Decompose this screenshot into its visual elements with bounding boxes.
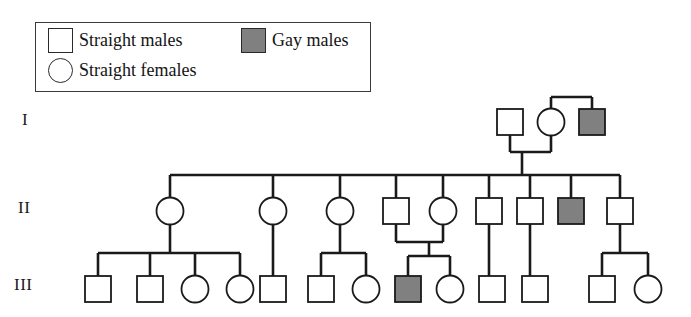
individual-I-2-circle-straight-female[interactable] bbox=[538, 109, 565, 136]
individual-III-6-square-straight-male[interactable] bbox=[308, 276, 334, 302]
circle-outline-icon bbox=[48, 58, 73, 83]
individual-III-13-circle-straight-female[interactable] bbox=[635, 276, 662, 303]
legend-label-gay-males: Gay males bbox=[272, 30, 348, 51]
individual-II-3-circle-straight-female[interactable] bbox=[327, 198, 354, 225]
individual-III-11-square-straight-male[interactable] bbox=[522, 276, 548, 302]
individual-II-1-circle-straight-female[interactable] bbox=[157, 198, 184, 225]
individual-I-3-square-gay-male[interactable] bbox=[579, 109, 605, 135]
individual-III-2-square-straight-male[interactable] bbox=[137, 276, 163, 302]
generation-label-1: I bbox=[22, 110, 28, 130]
individual-I-1-square-straight-male[interactable] bbox=[497, 109, 523, 135]
generation-label-2: II bbox=[18, 198, 30, 218]
legend: Straight males Gay males Straight female… bbox=[35, 22, 371, 92]
individual-III-7-circle-straight-female[interactable] bbox=[353, 276, 380, 303]
individual-II-6-square-straight-male[interactable] bbox=[476, 198, 502, 224]
generation-3-symbols bbox=[85, 276, 662, 303]
individual-III-3-circle-straight-female[interactable] bbox=[182, 276, 209, 303]
individual-III-5-square-straight-male[interactable] bbox=[260, 276, 286, 302]
individual-II-8-square-gay-male[interactable] bbox=[558, 198, 584, 224]
pedigree-figure: Straight males Gay males Straight female… bbox=[0, 0, 691, 317]
legend-label-straight-males: Straight males bbox=[79, 30, 182, 51]
square-filled-icon bbox=[241, 28, 266, 53]
individual-II-2-circle-straight-female[interactable] bbox=[260, 198, 287, 225]
individual-III-12-square-straight-male[interactable] bbox=[589, 276, 615, 302]
square-outline-icon bbox=[48, 28, 73, 53]
individual-III-9-circle-straight-female[interactable] bbox=[437, 276, 464, 303]
connector-lines bbox=[98, 97, 648, 276]
individual-III-1-square-straight-male[interactable] bbox=[85, 276, 111, 302]
legend-item-straight-females: Straight females bbox=[48, 58, 196, 83]
individual-II-5-circle-straight-female[interactable] bbox=[430, 198, 457, 225]
individual-II-4-square-straight-male[interactable] bbox=[383, 198, 409, 224]
individual-III-4-circle-straight-female[interactable] bbox=[227, 276, 254, 303]
legend-label-straight-females: Straight females bbox=[79, 60, 196, 81]
generation-label-3: III bbox=[14, 275, 32, 295]
legend-item-straight-males: Straight males bbox=[48, 28, 182, 53]
individual-III-8-square-gay-male[interactable] bbox=[395, 276, 421, 302]
generation-2-symbols bbox=[157, 198, 634, 225]
generation-1-symbols bbox=[497, 109, 605, 136]
individual-III-10-square-straight-male[interactable] bbox=[479, 276, 505, 302]
individual-II-9-square-straight-male[interactable] bbox=[607, 198, 633, 224]
individual-II-7-square-straight-male[interactable] bbox=[517, 198, 543, 224]
legend-item-gay-males: Gay males bbox=[241, 28, 348, 53]
